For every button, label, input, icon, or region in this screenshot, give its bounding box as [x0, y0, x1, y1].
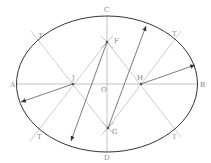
construction-line-f-h-t — [107, 42, 181, 137]
label-b: B — [200, 81, 205, 89]
label-o: O — [101, 86, 107, 94]
label-a: A — [9, 81, 16, 89]
label-t-top-right: T — [172, 30, 177, 38]
label-g: G — [112, 128, 118, 136]
point-g — [107, 127, 110, 130]
label-f: F — [114, 37, 119, 45]
label-j: J — [71, 74, 75, 82]
construction-line-g-j-t — [30, 42, 107, 141]
label-c: C — [104, 6, 109, 14]
point-j — [72, 83, 75, 86]
point-f — [106, 41, 109, 44]
label-t-bottom-left: T — [37, 133, 42, 141]
label-t-top-left: T — [38, 32, 43, 40]
label-t-bottom-right: T — [172, 133, 177, 141]
radius-arrow-j — [21, 84, 73, 102]
construction-line-g-h-t — [108, 31, 181, 128]
ellipse-construction-diagram: A B C D O J H F G T T T T — [0, 0, 211, 163]
label-h: H — [137, 74, 143, 82]
point-h — [140, 83, 143, 86]
construction-line-f-j-t — [31, 31, 107, 128]
label-d: D — [104, 154, 110, 162]
radius-arrow-h — [141, 65, 195, 84]
